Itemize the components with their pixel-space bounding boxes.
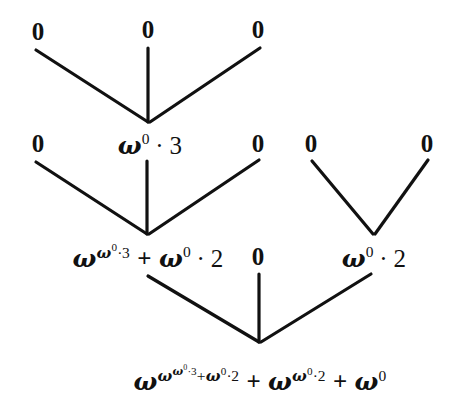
omega-glyph: ω [72,244,96,273]
node-label: 0 [32,18,45,45]
exponent-group: ω0·2 [292,367,326,384]
exponent-zero: 0 [142,130,150,147]
node-r1-left-zero: 0 [32,19,45,44]
node-label: 0 [421,130,434,157]
node-r2-omega-times-3: ω0 · 3 [118,133,183,158]
cdot-glyph: · [374,245,394,272]
edge-r2c5-to-r3c3 [375,160,428,234]
node-label: 0 [252,130,265,157]
edge-r2c1-to-r3c1 [36,162,147,234]
coefficient-three: 3 [122,243,130,260]
plus-glyph: + [197,367,206,384]
omega-glyph: ω [159,244,183,273]
exponent-zero: 0 [379,367,387,384]
node-r2-zero-4: 0 [421,131,434,156]
ordinal-tree-diagram: 0 0 0 0 ω0 · 3 0 0 0 ωω0·3 + ω0 · 2 0 ω0… [0,0,454,411]
omega-glyph: ω [133,367,157,396]
node-r2-zero-2: 0 [252,131,265,156]
coefficient-two: 2 [211,245,224,272]
exponent-group: ω0·3 [96,243,130,260]
omega-glyph: ω [96,242,111,261]
edge-r3c1-to-r4c1 [148,276,259,342]
plus-glyph: + [130,245,159,272]
node-r3-left-expression: ωω0·3 + ω0 · 2 [72,246,223,271]
node-r2-zero-1: 0 [32,131,45,156]
node-label: 0 [252,16,265,43]
omega-glyph: ω [206,366,221,385]
exponent-zero: 0 [366,243,374,260]
edge-r1c3-to-r2c2 [150,48,260,122]
omega-glyph: ω [172,365,183,378]
tree-edges-layer [0,0,454,411]
node-label: 0 [252,243,265,270]
omega-glyph: ω [342,244,366,273]
coefficient-two: 2 [231,367,239,384]
node-r1-right-zero: 0 [252,17,265,42]
node-r3-middle-zero: 0 [252,244,265,269]
exponent-group: ωω0·3+ω0·2 [157,367,239,384]
node-r2-zero-3: 0 [305,131,318,156]
edge-r1c1-to-r2c2 [36,50,148,122]
node-label: 0 [142,16,155,43]
omega-glyph: ω [355,367,379,396]
plus-glyph: + [239,368,268,395]
omega-glyph: ω [157,366,172,385]
coefficient-two: 2 [394,245,407,272]
node-label: 0 [32,130,45,157]
edge-r2c4-to-r3c3 [312,161,373,234]
omega-glyph: ω [292,366,307,385]
omega-glyph: ω [118,131,142,160]
node-r4-root-expression: ωωω0·3+ω0·2 + ωω0·2 + ω0 [133,368,386,394]
cdot-glyph: · [150,132,170,159]
edge-r2c3-to-r3c1 [149,160,259,234]
omega-glyph: ω [268,367,292,396]
plus-glyph: + [326,368,355,395]
cdot-glyph: · [191,245,211,272]
coefficient-three: 3 [170,132,183,159]
node-r1-middle-zero: 0 [142,17,155,42]
node-label: 0 [305,130,318,157]
node-r3-right-expression: ω0 · 2 [342,246,407,271]
edge-r3c3-to-r4c1 [261,274,371,342]
exponent-group: ω0·3 [172,365,196,377]
